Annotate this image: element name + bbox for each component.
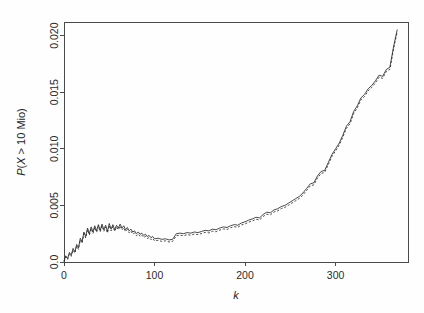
data-series (64, 30, 397, 262)
y-tick-label: 0.005 (48, 192, 60, 218)
series-line-upper-estimate (64, 30, 397, 261)
x-tick-label: 100 (146, 269, 164, 281)
y-axis-title: P(X > 10 Mio) (15, 108, 27, 176)
y-tick-label: 0.010 (48, 135, 60, 161)
x-tick-label: 200 (236, 269, 254, 281)
y-tick-label: 0.015 (48, 79, 60, 105)
chart-figure: 01002003000.00.0050.0100.0150.020 kP(X >… (0, 0, 424, 313)
plot-canvas: 01002003000.00.0050.0100.0150.020 kP(X >… (0, 0, 424, 313)
y-tick-label: 0.0 (48, 255, 60, 270)
axis-tick-labels: 01002003000.00.0050.0100.0150.020 (48, 22, 345, 281)
x-tick-label: 0 (61, 269, 67, 281)
x-tick-label: 300 (327, 269, 345, 281)
axis-ticks (60, 36, 336, 266)
x-axis-title: k (233, 289, 239, 301)
y-tick-label: 0.020 (48, 22, 60, 48)
plot-frame (64, 22, 408, 262)
